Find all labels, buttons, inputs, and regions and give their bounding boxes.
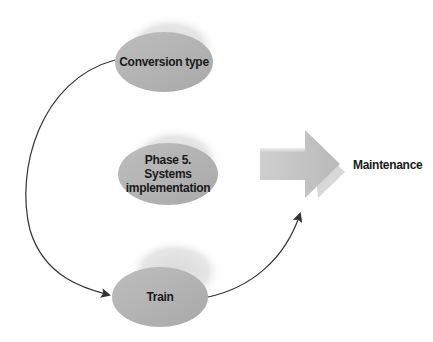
node-label-conversion-type: Conversion type <box>115 55 213 69</box>
connector-conversion-to-train <box>26 60 115 295</box>
connector-train-to-maintenance <box>208 214 300 297</box>
node-label-train: Train <box>125 290 195 304</box>
node-label-line: Systems <box>118 167 218 181</box>
node-label-phase-5: Phase 5. Systems implementation <box>118 153 218 195</box>
block-arrow-icon <box>260 130 345 198</box>
node-label-line: Phase 5. <box>118 153 218 167</box>
outcome-label-maintenance: Maintenance <box>353 158 422 172</box>
node-conversion-type <box>115 15 218 92</box>
node-train <box>112 239 223 327</box>
node-label-line: implementation <box>118 181 218 195</box>
